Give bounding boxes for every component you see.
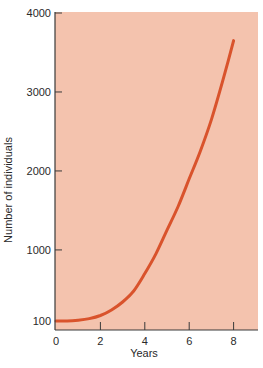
y-tick-label: 1000 bbox=[27, 244, 51, 256]
y-axis-title: Number of individuals bbox=[2, 137, 14, 243]
y-tick-label: 4000 bbox=[27, 7, 51, 19]
x-tick-label: 0 bbox=[53, 335, 59, 347]
y-tick-label: 2000 bbox=[27, 165, 51, 177]
x-tick-label: 8 bbox=[231, 335, 237, 347]
x-tick-label: 4 bbox=[142, 335, 148, 347]
population-growth-chart: 1001000200030004000 02468 Years Number o… bbox=[0, 0, 263, 368]
x-tick-label: 6 bbox=[186, 335, 192, 347]
y-tick-label: 3000 bbox=[27, 86, 51, 98]
x-axis-title: Years bbox=[130, 347, 158, 359]
x-tick-label: 2 bbox=[97, 335, 103, 347]
y-tick-label: 100 bbox=[33, 315, 51, 327]
